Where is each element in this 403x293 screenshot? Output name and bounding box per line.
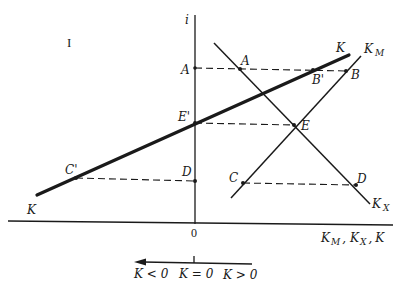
- label-B: B: [350, 68, 360, 82]
- label-E-prime: E': [177, 110, 190, 124]
- point-B: [344, 69, 348, 73]
- region-label: I: [67, 35, 71, 50]
- label-curve-K-M: KM: [363, 42, 385, 58]
- legend-label-negative: K < 0: [133, 267, 169, 281]
- point-A-axis: [193, 66, 197, 70]
- label-D: D: [356, 172, 367, 186]
- origin-label: 0: [191, 226, 197, 240]
- y-axis-label: i: [185, 13, 189, 27]
- diagram-canvas: I i A A B' B E' E C' D C D K K KM KX KM,…: [0, 0, 403, 293]
- dashed-line-Eprime-E: [195, 123, 294, 125]
- legend-label-positive: K > 0: [222, 268, 258, 282]
- label-curve-K-X: KX: [371, 197, 390, 213]
- x-axis-label: KM,KX,K: [320, 231, 385, 247]
- label-C-prime: C': [65, 163, 77, 177]
- point-E: [292, 123, 296, 127]
- label-D-axis: D: [181, 165, 192, 179]
- label-E: E: [300, 119, 310, 133]
- label-A: A: [240, 54, 250, 68]
- dashed-line-A-B: [195, 68, 347, 71]
- point-D-axis: [193, 179, 197, 183]
- legend-label-zero: K = 0: [178, 267, 214, 281]
- legend-arrow-head-icon: [134, 259, 146, 266]
- label-C: C: [229, 171, 238, 185]
- label-B-prime: B': [311, 73, 324, 87]
- label-curve-K-bottom: K: [26, 203, 37, 217]
- legend-arrow-line: [143, 262, 252, 264]
- point-B-prime: [311, 68, 315, 72]
- point-C: [241, 181, 245, 185]
- label-curve-K-top: K: [335, 41, 346, 55]
- x-axis: [8, 221, 393, 225]
- dashed-line-C-D: [243, 183, 356, 185]
- point-E-prime: [193, 121, 197, 125]
- dashed-line-Cprime-D: [76, 178, 195, 181]
- label-A-axis: A: [180, 63, 190, 77]
